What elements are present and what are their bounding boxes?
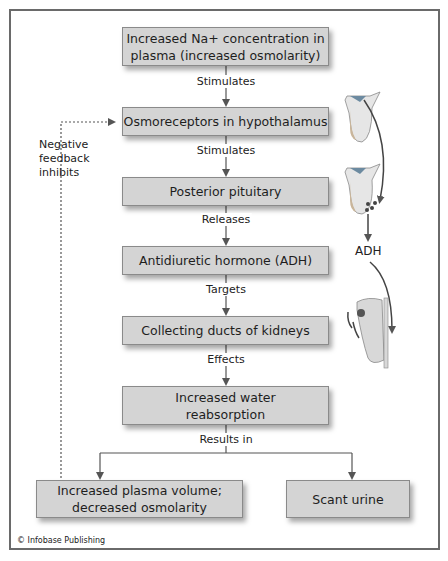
box-text: Increased plasma volume; — [57, 482, 222, 499]
connector-label: Results in — [198, 433, 253, 446]
box-text: Increased Na+ concentration in — [126, 30, 324, 47]
box-collecting-ducts: Collecting ducts of kidneys — [122, 316, 329, 345]
box-text: reabsorption — [186, 406, 265, 423]
box-osmoreceptors: Osmoreceptors in hypothalamus — [122, 107, 329, 136]
box-posterior-pituitary: Posterior pituitary — [122, 177, 329, 206]
adh-label: ADH — [355, 244, 381, 258]
connector-label: Targets — [205, 283, 247, 296]
box-text: Posterior pituitary — [169, 183, 281, 200]
connector-label: Stimulates — [196, 144, 257, 157]
box-text: decreased osmolarity — [72, 499, 207, 516]
box-plasma-volume: Increased plasma volume; decreased osmol… — [36, 480, 243, 518]
feedback-label-line: inhibits — [39, 166, 90, 180]
box-na-concentration: Increased Na+ concentration in plasma (i… — [122, 27, 329, 66]
box-text: plasma (increased osmolarity) — [131, 47, 321, 64]
feedback-label-line: Negative — [39, 138, 90, 152]
box-text: Collecting ducts of kidneys — [141, 322, 309, 339]
connector-label: Stimulates — [196, 75, 257, 88]
box-water-reabsorption: Increased water reabsorption — [122, 386, 329, 425]
hypothalamus-icon — [345, 92, 380, 142]
box-adh: Antidiuretic hormone (ADH) — [122, 246, 329, 275]
box-text: Scant urine — [312, 491, 383, 508]
pituitary-icon — [345, 164, 380, 214]
connector-label: Effects — [206, 353, 245, 366]
box-text: Osmoreceptors in hypothalamus — [124, 113, 328, 130]
connector-label: Releases — [201, 213, 252, 226]
feedback-label: Negative feedback inhibits — [39, 138, 90, 180]
copyright-credit: © Infobase Publishing — [17, 536, 105, 545]
box-text: Increased water — [175, 389, 275, 406]
kidney-nephron-icon — [348, 298, 388, 368]
box-scant-urine: Scant urine — [286, 480, 410, 518]
box-text: Antidiuretic hormone (ADH) — [139, 252, 312, 269]
feedback-label-line: feedback — [39, 152, 90, 166]
